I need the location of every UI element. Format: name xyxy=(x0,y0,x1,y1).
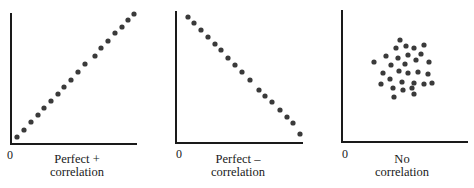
data-point xyxy=(284,114,289,119)
axes xyxy=(176,11,303,143)
data-point xyxy=(218,47,223,52)
data-point xyxy=(225,55,230,60)
origin-label-negative: 0 xyxy=(176,148,182,160)
data-point xyxy=(393,45,398,50)
data-point xyxy=(396,68,401,73)
data-point xyxy=(403,43,408,48)
data-point xyxy=(21,127,26,132)
data-point xyxy=(41,105,46,110)
data-point xyxy=(269,99,274,104)
data-point xyxy=(400,87,405,92)
data-point xyxy=(14,134,19,139)
data-point xyxy=(411,45,416,50)
data-point xyxy=(390,85,395,90)
data-point xyxy=(198,27,203,32)
data-point xyxy=(75,69,80,74)
data-point xyxy=(48,98,53,103)
axes xyxy=(342,10,468,142)
data-point xyxy=(191,20,196,25)
data-point xyxy=(411,91,416,96)
caption-positive-correlation: Perfect + correlation xyxy=(27,153,127,179)
data-point xyxy=(82,61,87,66)
scatter-panel-negative xyxy=(176,11,303,143)
data-point xyxy=(256,87,261,92)
data-point xyxy=(247,77,252,82)
data-point xyxy=(411,80,416,85)
data-point xyxy=(425,71,430,76)
data-point xyxy=(105,38,110,43)
data-point xyxy=(92,53,97,58)
data-point xyxy=(409,85,414,90)
data-point xyxy=(131,11,136,16)
data-point xyxy=(290,120,295,125)
data-point xyxy=(413,57,418,62)
data-point xyxy=(405,52,410,57)
data-point xyxy=(205,34,210,39)
scatter-panel-positive xyxy=(11,11,137,144)
data-point xyxy=(28,119,33,124)
data-point xyxy=(383,53,388,58)
data-point xyxy=(397,37,402,42)
data-point xyxy=(212,41,217,46)
data-point xyxy=(426,59,431,64)
origin-label-positive: 0 xyxy=(7,149,13,161)
data-point xyxy=(421,42,426,47)
scatter-panel-none xyxy=(342,10,468,142)
data-point xyxy=(371,59,376,64)
data-point xyxy=(232,62,237,67)
data-point xyxy=(119,24,124,29)
caption-line-2: correlation xyxy=(188,166,288,179)
data-point xyxy=(380,70,385,75)
data-point xyxy=(421,81,426,86)
data-point xyxy=(277,107,282,112)
caption-negative-correlation: Perfect – correlation xyxy=(188,153,288,179)
caption-line-2: correlation xyxy=(27,166,127,179)
data-point xyxy=(388,62,393,67)
data-point xyxy=(35,112,40,117)
data-point xyxy=(405,70,410,75)
data-point xyxy=(415,69,420,74)
data-point xyxy=(402,61,407,66)
data-point xyxy=(112,30,117,35)
data-point xyxy=(429,80,434,85)
data-point xyxy=(395,55,400,60)
correlation-figure: 0 Perfect + correlation 0 Perfect – corr… xyxy=(0,0,474,188)
data-point xyxy=(391,94,396,99)
data-point xyxy=(297,131,302,136)
data-point xyxy=(399,79,404,84)
data-point xyxy=(98,45,103,50)
data-point xyxy=(387,76,392,81)
data-point xyxy=(418,51,423,56)
data-point xyxy=(125,17,130,22)
data-point xyxy=(55,91,60,96)
caption-line-2: correlation xyxy=(352,166,452,179)
caption-no-correlation: No correlation xyxy=(352,153,452,179)
origin-label-none: 0 xyxy=(342,148,348,160)
data-point xyxy=(378,81,383,86)
data-point xyxy=(61,84,66,89)
data-point xyxy=(185,14,190,19)
data-point xyxy=(239,69,244,74)
data-point xyxy=(262,93,267,98)
data-point xyxy=(68,77,73,82)
